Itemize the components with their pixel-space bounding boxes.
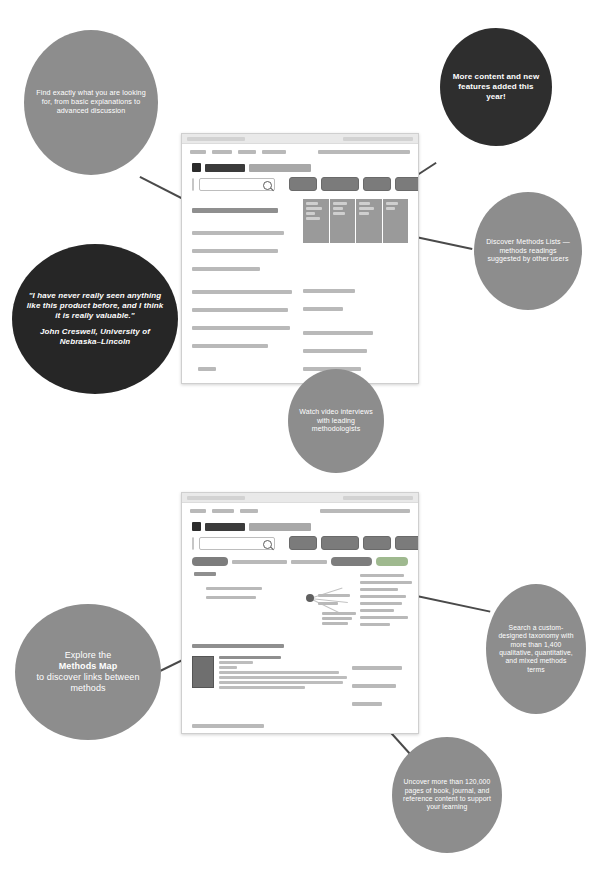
callout-more-content-text: More content and new features added this…: [450, 72, 542, 101]
callout-methods-lists-text: Discover Methods Lists — methods reading…: [484, 238, 572, 264]
search-icon-2: [263, 540, 272, 549]
nav2-button-cases[interactable]: [363, 536, 391, 550]
callout-watch-video-text: Watch video interviews with leading meth…: [298, 408, 374, 434]
breadcrumb: [182, 554, 418, 566]
map-list-4[interactable]: [360, 595, 406, 598]
map-list-2[interactable]: [360, 581, 412, 584]
research-methods-word-2: [249, 523, 311, 531]
search-input[interactable]: [199, 178, 275, 191]
nav-button-video[interactable]: [395, 177, 419, 191]
callout-methods-map-line2: Methods Map: [27, 661, 149, 672]
browser-address-blur-2: u: [343, 496, 413, 500]
panel-video[interactable]: [383, 199, 409, 243]
result-row[interactable]: [182, 652, 418, 710]
map-list-5[interactable]: [360, 602, 402, 605]
leader-line-taxonomy: [412, 594, 491, 612]
book-cover-thumbnail: [192, 656, 214, 688]
map-node-label: [318, 594, 350, 597]
util-link-1[interactable]: a: [190, 150, 206, 154]
util2-right-blur: d: [320, 509, 410, 513]
callout-watch-video: Watch video interviews with leading meth…: [288, 369, 384, 473]
map-toolbar-button[interactable]: [331, 557, 372, 566]
nav2-button-browse[interactable]: [289, 536, 317, 550]
nav2-button-methods-map[interactable]: [321, 536, 359, 550]
callout-find-exactly-text: Find exactly what you are looking for, f…: [30, 89, 152, 115]
search-scope-select-2[interactable]: [192, 537, 194, 550]
map-heading: [194, 572, 216, 576]
sage-logo-mark-2: [192, 522, 201, 531]
browser-top-strip: menu url: [182, 134, 418, 144]
search-input-2[interactable]: [199, 537, 275, 550]
util2-link-2[interactable]: b: [212, 509, 234, 513]
map-node-sub: [318, 602, 338, 605]
results-heading: r: [192, 644, 284, 648]
callout-uncover-pages-text: Uncover more than 120,000 pages of book,…: [402, 778, 492, 811]
main-nav-2: [289, 536, 419, 550]
map-list-6[interactable]: [360, 609, 394, 612]
callout-more-content: More content and new features added this…: [440, 28, 552, 146]
map-list-3[interactable]: [360, 588, 398, 591]
map-action-button[interactable]: [376, 557, 408, 566]
screenshot-homepage: menu url a b c d e: [181, 133, 419, 384]
panel-journals[interactable]: [330, 199, 356, 243]
utility-bar-2: a b c d: [182, 503, 418, 516]
utility-bar: a b c d e: [182, 144, 418, 157]
map-term-2[interactable]: [206, 596, 256, 599]
callout-methods-map-line1: Explore the: [27, 650, 149, 661]
browser-menu-blur: menu: [187, 137, 245, 141]
site-logo[interactable]: [182, 157, 418, 175]
util2-link-1[interactable]: a: [190, 509, 206, 513]
panel-reference[interactable]: [356, 199, 382, 243]
nav-button-cases[interactable]: [363, 177, 391, 191]
util-link-4[interactable]: d: [262, 150, 286, 154]
search-scope-select[interactable]: [192, 178, 194, 191]
feature-panels: [303, 199, 408, 243]
callout-taxonomy-text: Search a custom-designed taxonomy with m…: [496, 624, 576, 674]
map-node-center[interactable]: [306, 594, 314, 602]
testimonial-quote-text: "I have never really seen anything like …: [26, 291, 164, 320]
callout-uncover-pages: Uncover more than 120,000 pages of book,…: [392, 737, 502, 853]
callout-sheet: menu url a b c d e: [0, 0, 591, 873]
callout-taxonomy: Search a custom-designed taxonomy with m…: [486, 584, 586, 714]
callout-methods-lists: Discover Methods Lists — methods reading…: [474, 192, 582, 310]
breadcrumb-methods-map[interactable]: [192, 557, 228, 566]
util-link-3[interactable]: c: [238, 150, 256, 154]
map-list-8[interactable]: [360, 623, 390, 626]
nav2-button-video[interactable]: [395, 536, 419, 550]
util2-link-3[interactable]: c: [240, 509, 258, 513]
nav-button-methods-map[interactable]: [321, 177, 359, 191]
main-nav: [289, 177, 419, 191]
testimonial-attribution: John Creswell, University of Nebraska–Li…: [26, 327, 164, 347]
sage-logo-word-2: [205, 523, 245, 531]
promo-column: h: [192, 199, 297, 384]
callout-methods-map: Explore the Methods Map to discover link…: [15, 604, 161, 740]
search-icon: [263, 181, 272, 190]
map-list-1[interactable]: [360, 574, 404, 577]
panel-books[interactable]: [303, 199, 329, 243]
browser-menu-blur-2: m: [187, 496, 245, 500]
callout-methods-map-line3: to discover links between methods: [27, 672, 149, 694]
panel-column: [303, 199, 408, 384]
callout-find-exactly: Find exactly what you are looking for, f…: [24, 30, 158, 175]
site-logo-2[interactable]: [182, 516, 418, 534]
search-bar-2: [182, 534, 418, 554]
methods-map-canvas[interactable]: [192, 570, 408, 632]
map-term-1[interactable]: [206, 587, 262, 590]
nav-button-browse[interactable]: [289, 177, 317, 191]
result-details: [219, 656, 347, 710]
browser-top-strip-2: m u: [182, 493, 418, 503]
util-link-2[interactable]: b: [212, 150, 232, 154]
browser-address-blur: url: [343, 137, 413, 141]
util-right-blur: e: [318, 150, 410, 154]
research-methods-word: [249, 164, 311, 172]
callout-testimonial: "I have never really seen anything like …: [12, 244, 178, 394]
search-bar: [182, 175, 418, 195]
screenshot-methods-map: m u a b c d: [181, 492, 419, 734]
sage-logo-mark: [192, 163, 201, 172]
result-title[interactable]: [219, 656, 281, 659]
map-list-7[interactable]: [360, 616, 408, 619]
promo-heading: h: [192, 208, 278, 213]
sage-logo-word: [205, 164, 245, 172]
content-columns: h: [182, 195, 418, 384]
